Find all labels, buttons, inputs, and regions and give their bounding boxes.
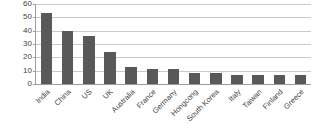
bar-chart: No of Document 6050403020100 IndiaChinaU… [0,0,313,139]
x-axis-tick-label: India [34,88,51,105]
y-axis-tick-labels: 6050403020100 [14,4,32,84]
bar-slot [99,4,120,84]
bar[interactable] [104,52,115,84]
bar-slot [248,4,269,84]
bar[interactable] [189,73,200,84]
bar[interactable] [252,75,263,84]
y-axis-tick-mark [33,84,36,85]
bar-slot [205,4,226,84]
x-axis-tick-label: UK [102,88,115,101]
y-axis-tick-label: 0 [14,80,32,88]
bar-slot [57,4,78,84]
y-axis-tick-label: 50 [14,13,32,21]
y-axis-tick-label: 20 [14,53,32,61]
x-axis-label-slot: Taiwan [247,86,268,139]
y-axis-tick-label: 30 [14,40,32,48]
bar[interactable] [210,73,221,84]
bar-slot [142,4,163,84]
bar[interactable] [168,69,179,84]
y-axis-tick-label: 10 [14,67,32,75]
x-axis-tick-label: China [53,88,73,108]
bar[interactable] [231,75,242,84]
x-axis-tick-label: Italy [227,88,242,103]
bar-series [36,4,311,84]
x-axis-tick-labels: IndiaChinaUSUKAustraliaFranceGermanyHong… [35,86,311,139]
bar-slot [78,4,99,84]
x-axis-label-slot: Italy [226,86,247,139]
x-axis-label-slot: US [77,86,98,139]
bar[interactable] [147,69,158,84]
bar-slot [226,4,247,84]
x-axis-label-slot: India [35,86,56,139]
y-axis-tick-label: 40 [14,27,32,35]
x-axis-label-slot: Greece [290,86,311,139]
plot-area [35,4,311,85]
x-axis-label-slot: South Korea [205,86,226,139]
x-axis-label-slot: Finland [269,86,290,139]
bar-slot [36,4,57,84]
bar[interactable] [83,36,94,84]
bar[interactable] [274,75,285,84]
x-axis-label-slot: China [56,86,77,139]
bar[interactable] [41,13,52,84]
bar[interactable] [125,67,136,84]
x-axis-label-slot: Australia [120,86,141,139]
y-axis-tick-label: 60 [14,0,32,8]
bar[interactable] [295,75,306,84]
bar-slot [163,4,184,84]
x-axis-tick-label: US [81,88,94,101]
bar-slot [290,4,311,84]
bar[interactable] [62,31,73,84]
bar-slot [184,4,205,84]
bar-slot [121,4,142,84]
bar-slot [269,4,290,84]
